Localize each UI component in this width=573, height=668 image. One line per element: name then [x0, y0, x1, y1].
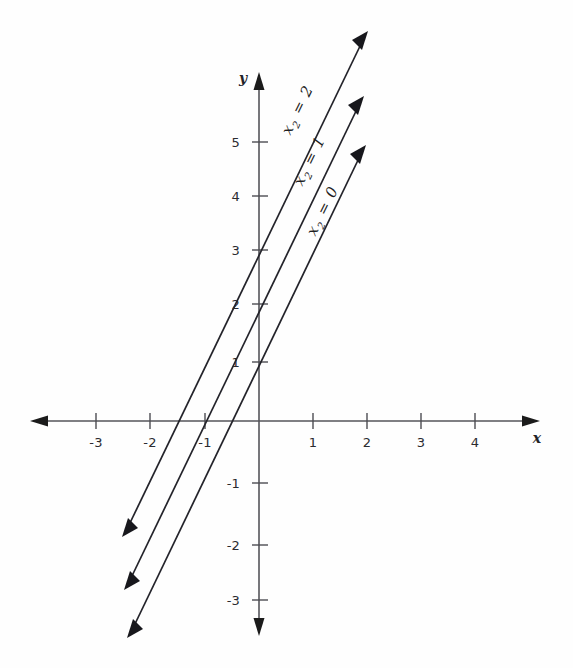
series-label-x2-eq-0: x2 = 0: [303, 183, 344, 239]
data-line-x2-eq-0-bottom-arrowhead: [127, 619, 143, 638]
data-line-x2-eq-1-bottom-arrowhead: [124, 571, 140, 590]
series-label-x2-eq-2-rest: = 2: [285, 82, 317, 122]
svg-text:x2 = 2: x2 = 2: [278, 82, 319, 138]
y-tick-label-5: 5: [232, 135, 240, 150]
y-axis-label: y: [238, 70, 248, 86]
data-line-x2-eq-0-top-arrowhead: [350, 145, 366, 164]
data-line-x2-eq-2: [122, 31, 368, 537]
data-line-x2-eq-2-top-arrowhead: [352, 31, 368, 50]
data-line-x2-eq-0: [127, 145, 366, 638]
y-axis-bottom-arrowhead: [254, 618, 265, 636]
x-axis-right-arrowhead: [522, 416, 540, 427]
series-label-x2-eq-1: x2 = 1: [290, 133, 331, 189]
data-line-x2-eq-1-segment: [131, 107, 358, 578]
data-line-x2-eq-1: [124, 96, 364, 590]
svg-text:x2 = 0: x2 = 0: [303, 183, 344, 239]
line-chart-svg: -3 -2 -1 1 2 3 4 x 5 4 3: [0, 0, 573, 668]
data-line-x2-eq-1-top-arrowhead: [348, 96, 364, 115]
series-label-x2-eq-2: x2 = 2: [278, 82, 319, 138]
x-axis-group: -3 -2 -1 1 2 3 4 x: [30, 413, 542, 450]
x-axis-left-arrowhead: [30, 416, 48, 427]
y-tick-label--3: -3: [227, 593, 240, 608]
data-line-x2-eq-2-bottom-arrowhead: [122, 518, 138, 537]
x-tick-label-3: 3: [417, 435, 425, 450]
series-label-x2-eq-1-rest: = 1: [297, 133, 329, 173]
x-tick-label--3: -3: [89, 435, 102, 450]
y-tick-label--2: -2: [227, 538, 240, 553]
x-tick-label-2: 2: [363, 435, 371, 450]
y-axis-group: 5 4 3 2 1 -1 -2 -3 y: [227, 70, 268, 636]
chart-figure: -3 -2 -1 1 2 3 4 x 5 4 3: [0, 0, 573, 668]
x-axis-label: x: [532, 430, 542, 446]
y-tick-label-3: 3: [232, 243, 240, 258]
y-axis-top-arrowhead: [254, 72, 265, 90]
y-tick-label--1: -1: [227, 476, 240, 491]
x-tick-label-4: 4: [471, 435, 479, 450]
svg-text:x2 = 1: x2 = 1: [290, 133, 331, 189]
y-tick-label-4: 4: [232, 189, 240, 204]
x-tick-label-1: 1: [309, 435, 317, 450]
x-tick-label--1: -1: [198, 435, 211, 450]
data-line-x2-eq-2-segment: [129, 42, 362, 525]
x-tick-label--2: -2: [143, 435, 156, 450]
